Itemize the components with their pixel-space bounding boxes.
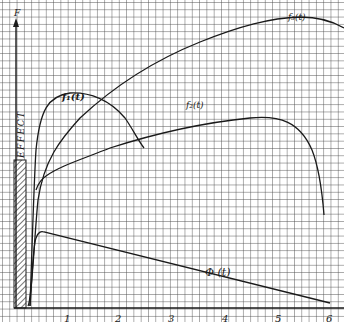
graph-paper-grid	[0, 0, 344, 322]
label-f3: f₃(t)	[287, 12, 306, 22]
x-tick-2: 2	[114, 313, 121, 324]
x-tick-1: 1	[64, 313, 70, 324]
label-f2: f₂(t)	[185, 100, 204, 110]
x-tick-5: 5	[275, 313, 281, 324]
y-axis-symbol: F	[13, 8, 21, 18]
effect-vs-time-chart: F EFFECT 1 2 3 4 5 6 f₁(t) f₂(t) f₃(t) Φ…	[0, 0, 344, 332]
x-tick-4: 4	[221, 313, 228, 324]
label-phi: Φ (t)	[205, 266, 231, 279]
label-f1: f₁(t)	[61, 91, 85, 102]
x-tick-6: 6	[326, 313, 333, 324]
x-tick-3: 3	[168, 313, 174, 324]
y-axis-title: EFFECT	[16, 110, 26, 159]
